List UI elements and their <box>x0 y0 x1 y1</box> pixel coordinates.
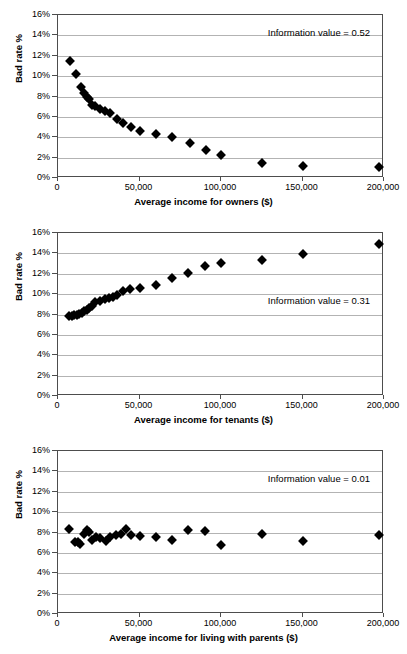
y-axis-tick-label: 6% <box>37 547 50 556</box>
gridline <box>58 355 382 356</box>
x-axis-tick-label: 150,000 <box>285 183 318 192</box>
x-axis-tick-label: 200,000 <box>367 183 400 192</box>
y-axis-tick-label: 2% <box>37 152 50 161</box>
x-axis-tick <box>383 613 384 617</box>
y-axis-tick-label: 4% <box>37 132 50 141</box>
y-axis-tick-label: 2% <box>37 588 50 597</box>
y-axis-tick-label: 14% <box>32 466 50 475</box>
x-axis-tick <box>139 613 140 617</box>
annotation-information-value: Information value = 0.52 <box>268 27 370 38</box>
x-axis-tick-label: 150,000 <box>285 401 318 410</box>
gridline <box>58 76 382 77</box>
gridline <box>58 253 382 254</box>
y-axis-tick-label: 10% <box>32 507 50 516</box>
x-axis-title: Average income for tenants ($) <box>0 414 407 425</box>
chart-parents: Bad rate % 0%2%4%6%8%10%12%14%16% Inform… <box>0 436 407 654</box>
figure-sheet: Bad rate % 0%2%4%6%8%10%12%14%16% Inform… <box>0 0 407 654</box>
annotation-information-value: Information value = 0.01 <box>268 473 370 484</box>
y-axis-tick-label: 10% <box>32 289 50 298</box>
y-axis-tick-label: 8% <box>37 91 50 100</box>
x-axis-tick-label: 100,000 <box>204 401 237 410</box>
y-axis-tick-label: 8% <box>37 527 50 536</box>
x-axis-tick-label: 100,000 <box>204 183 237 192</box>
x-axis-tick <box>57 395 58 399</box>
x-axis-tick-label: 50,000 <box>125 401 153 410</box>
y-axis-tick-label: 0% <box>37 391 50 400</box>
y-axis-tick-label: 10% <box>32 71 50 80</box>
y-axis-labels: 0%2%4%6%8%10%12%14%16% <box>0 232 57 395</box>
gridline <box>58 573 382 574</box>
gridline <box>58 117 382 118</box>
gridline <box>58 376 382 377</box>
y-axis-tick-label: 6% <box>37 329 50 338</box>
x-axis-tick <box>220 613 221 617</box>
y-axis-tick-label: 12% <box>32 50 50 59</box>
x-axis-tick <box>220 177 221 181</box>
gridline <box>58 315 382 316</box>
gridline <box>58 533 382 534</box>
y-axis-tick-label: 0% <box>37 609 50 618</box>
plot-area: Information value = 0.01 <box>57 450 383 613</box>
x-axis-tick <box>302 177 303 181</box>
x-axis-tick <box>57 177 58 181</box>
x-axis-tick-label: 0 <box>54 619 59 628</box>
gridline <box>58 56 382 57</box>
y-axis-labels: 0%2%4%6%8%10%12%14%16% <box>0 14 57 177</box>
gridline <box>58 274 382 275</box>
y-axis-tick-label: 6% <box>37 111 50 120</box>
y-axis-tick-label: 4% <box>37 568 50 577</box>
plot-area: Information value = 0.52 <box>57 14 383 177</box>
x-axis-tick <box>139 177 140 181</box>
x-axis-tick <box>302 613 303 617</box>
x-axis-title: Average income for living with parents (… <box>0 632 407 643</box>
x-axis-tick-label: 50,000 <box>125 619 153 628</box>
y-axis-tick-label: 14% <box>32 30 50 39</box>
y-axis-labels: 0%2%4%6%8%10%12%14%16% <box>0 450 57 613</box>
gridline <box>58 335 382 336</box>
gridline <box>58 137 382 138</box>
gridline <box>58 512 382 513</box>
y-axis-tick-label: 12% <box>32 268 50 277</box>
y-axis-tick-label: 16% <box>32 228 50 237</box>
chart-owners: Bad rate % 0%2%4%6%8%10%12%14%16% Inform… <box>0 0 407 218</box>
y-axis-tick-label: 12% <box>32 486 50 495</box>
x-axis-tick-label: 200,000 <box>367 401 400 410</box>
x-axis-tick-label: 100,000 <box>204 619 237 628</box>
x-axis-tick <box>302 395 303 399</box>
y-axis-tick-label: 8% <box>37 309 50 318</box>
x-axis-tick <box>220 395 221 399</box>
x-axis-tick-label: 50,000 <box>125 183 153 192</box>
plot-area: Information value = 0.31 <box>57 232 383 395</box>
x-axis-tick <box>57 613 58 617</box>
y-axis-tick-label: 16% <box>32 446 50 455</box>
x-axis-tick-label: 0 <box>54 401 59 410</box>
x-axis-tick <box>383 177 384 181</box>
y-axis-tick-label: 16% <box>32 10 50 19</box>
x-axis-tick-label: 200,000 <box>367 619 400 628</box>
gridline <box>58 594 382 595</box>
y-axis-tick-label: 2% <box>37 370 50 379</box>
annotation-information-value: Information value = 0.31 <box>268 295 370 306</box>
x-axis-tick-label: 150,000 <box>285 619 318 628</box>
y-axis-tick-label: 14% <box>32 248 50 257</box>
x-axis-tick <box>383 395 384 399</box>
chart-tenants: Bad rate % 0%2%4%6%8%10%12%14%16% Inform… <box>0 218 407 436</box>
gridline <box>58 553 382 554</box>
x-axis-tick <box>139 395 140 399</box>
gridline <box>58 97 382 98</box>
y-axis-tick-label: 4% <box>37 350 50 359</box>
y-axis-tick-label: 0% <box>37 173 50 182</box>
x-axis-tick-label: 0 <box>54 183 59 192</box>
x-axis-title: Average income for owners ($) <box>0 196 407 207</box>
gridline <box>58 492 382 493</box>
